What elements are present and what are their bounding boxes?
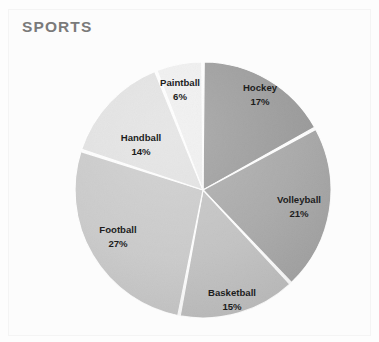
slice-label-percent: 6% bbox=[173, 91, 187, 102]
slice-label-name: Football bbox=[99, 224, 136, 235]
slice-label-name: Basketball bbox=[208, 287, 256, 298]
slice-label-percent: 17% bbox=[250, 96, 270, 107]
slice-label-name: Volleyball bbox=[277, 194, 321, 205]
pie-chart-svg: Hockey17%Volleyball21%Basketball15%Footb… bbox=[0, 0, 379, 342]
slice-label-percent: 21% bbox=[289, 208, 309, 219]
slice-label-name: Paintball bbox=[160, 77, 200, 88]
slice-label-percent: 27% bbox=[108, 238, 128, 249]
slice-label-percent: 14% bbox=[131, 146, 151, 157]
slice-label-name: Handball bbox=[121, 132, 162, 143]
slice-label-name: Hockey bbox=[243, 82, 278, 93]
pie-chart: Hockey17%Volleyball21%Basketball15%Footb… bbox=[0, 0, 379, 342]
screenshot-root: · · SPORTS bbox=[0, 0, 379, 342]
pie-sheen-overlay bbox=[75, 62, 331, 318]
slice-label-percent: 15% bbox=[222, 301, 242, 312]
